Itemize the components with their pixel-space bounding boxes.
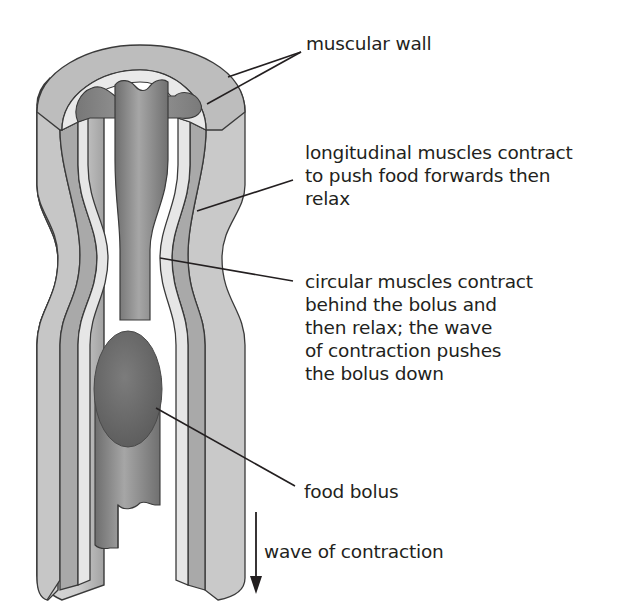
label-line: longitudinal muscles contract (305, 141, 573, 164)
label-line: of contraction pushes (305, 339, 533, 362)
label-line: muscular wall (306, 32, 431, 55)
right-wall-layers (160, 72, 245, 600)
label-line: relax (305, 187, 573, 210)
wave-arrow-icon (250, 512, 262, 594)
label-longitudinal-muscles: longitudinal muscles contract to push fo… (305, 141, 573, 210)
food-bolus (94, 331, 162, 447)
lumen-tissue (95, 80, 168, 549)
muscular-wall-leader-outer (228, 52, 301, 77)
label-line: wave of contraction (264, 540, 444, 563)
label-line: the bolus down (305, 362, 533, 385)
label-food-bolus: food bolus (304, 480, 398, 503)
label-muscular-wall: muscular wall (306, 32, 431, 55)
label-line: food bolus (304, 480, 398, 503)
label-line: circular muscles contract (305, 270, 533, 293)
label-circular-muscles: circular muscles contract behind the bol… (305, 270, 533, 385)
label-line: to push food forwards then (305, 164, 573, 187)
label-wave-of-contraction: wave of contraction (264, 540, 444, 563)
label-line: behind the bolus and (305, 293, 533, 316)
label-line: then relax; the wave (305, 316, 533, 339)
